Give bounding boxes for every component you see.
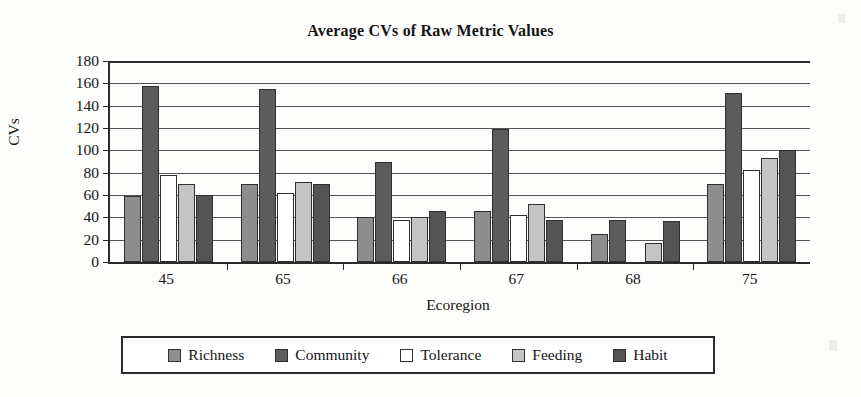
x-tick-label-67: 67	[458, 270, 575, 288]
y-axis-tick	[103, 61, 110, 62]
bar-richness-65	[241, 184, 258, 262]
y-axis-tick	[103, 217, 110, 218]
y-axis-tick	[103, 173, 110, 174]
bar-community-68	[609, 220, 626, 262]
bar-richness-67	[474, 211, 491, 262]
y-axis-tick	[103, 262, 110, 263]
bar-habit-67	[546, 220, 563, 262]
bar-community-45	[142, 86, 159, 262]
bar-richness-45	[124, 196, 141, 262]
bar-tolerance-66	[393, 220, 410, 262]
bar-feeding-66	[411, 217, 428, 262]
x-tick-label-75: 75	[691, 270, 808, 288]
legend-label: Habit	[633, 346, 667, 364]
bar-series-container	[110, 61, 810, 262]
bar-group-65	[227, 61, 344, 262]
bar-group-67	[460, 61, 577, 262]
x-axis-tick	[343, 262, 344, 270]
bar-community-67	[492, 129, 509, 262]
bar-richness-75	[707, 184, 724, 262]
bar-feeding-65	[295, 182, 312, 262]
legend-item-tolerance[interactable]: Tolerance	[400, 346, 481, 364]
bar-richness-66	[357, 217, 374, 262]
legend-swatch-icon	[400, 349, 413, 362]
y-axis-tick	[103, 106, 110, 107]
bar-group-75	[693, 61, 810, 262]
bar-group-45	[110, 61, 227, 262]
x-axis-tick	[693, 262, 694, 270]
y-axis-tick	[103, 128, 110, 129]
legend-swatch-icon	[512, 349, 525, 362]
y-tick-label: 180	[76, 52, 99, 70]
legend-label: Feeding	[532, 346, 582, 364]
y-tick-label: 100	[76, 141, 99, 159]
y-axis-tick	[103, 83, 110, 84]
legend-item-community[interactable]: Community	[275, 346, 369, 364]
bar-community-75	[725, 93, 742, 262]
x-tick-label-66: 66	[341, 270, 458, 288]
x-tick-labels: 456566676875	[108, 270, 808, 288]
bar-habit-45	[196, 195, 213, 262]
x-axis-tick	[227, 262, 228, 270]
legend-swatch-icon	[275, 349, 288, 362]
y-tick-label: 140	[76, 97, 99, 115]
y-axis-tick	[103, 195, 110, 196]
bar-habit-68	[663, 221, 680, 262]
bar-feeding-68	[645, 243, 662, 262]
legend-label: Richness	[188, 346, 244, 364]
x-tick-label-68: 68	[575, 270, 692, 288]
bar-tolerance-45	[160, 175, 177, 262]
y-tick-label: 20	[84, 231, 100, 249]
y-tick-label: 120	[76, 119, 99, 137]
bar-habit-65	[313, 184, 330, 262]
bar-tolerance-67	[510, 215, 527, 262]
bar-community-66	[375, 162, 392, 263]
y-tick-label: 80	[84, 164, 100, 182]
y-axis-title: CVs	[5, 118, 23, 146]
bar-tolerance-75	[743, 170, 760, 262]
x-axis-title: Ecoregion	[108, 296, 808, 314]
y-axis-tick	[103, 150, 110, 151]
x-axis-tick	[460, 262, 461, 270]
bar-feeding-75	[761, 158, 778, 262]
bar-feeding-45	[178, 184, 195, 262]
plot-area: 020406080100120140160180	[108, 61, 810, 264]
y-tick-label: 0	[91, 253, 99, 271]
x-axis-tick	[577, 262, 578, 270]
legend-swatch-icon	[613, 349, 626, 362]
x-tick-label-65: 65	[225, 270, 342, 288]
legend-item-richness[interactable]: Richness	[168, 346, 244, 364]
y-tick-label: 40	[84, 208, 100, 226]
legend-label: Community	[295, 346, 369, 364]
legend-label: Tolerance	[420, 346, 481, 364]
chart-title: Average CVs of Raw Metric Values	[0, 22, 861, 40]
legend: RichnessCommunityToleranceFeedingHabit	[121, 336, 715, 374]
y-axis-tick	[103, 240, 110, 241]
bar-group-66	[343, 61, 460, 262]
legend-item-feeding[interactable]: Feeding	[512, 346, 582, 364]
y-tick-label: 160	[76, 74, 99, 92]
bar-community-65	[259, 89, 276, 262]
x-tick-label-45: 45	[108, 270, 225, 288]
bar-feeding-67	[528, 204, 545, 262]
legend-item-habit[interactable]: Habit	[613, 346, 667, 364]
bar-habit-75	[779, 150, 796, 262]
legend-swatch-icon	[168, 349, 181, 362]
bar-group-68	[577, 61, 694, 262]
bar-tolerance-65	[277, 193, 294, 262]
bar-habit-66	[429, 211, 446, 262]
chart-figure: Average CVs of Raw Metric Values CVs 020…	[0, 0, 861, 397]
bar-richness-68	[591, 234, 608, 262]
y-tick-label: 60	[84, 186, 100, 204]
scan-artifact	[829, 340, 837, 351]
